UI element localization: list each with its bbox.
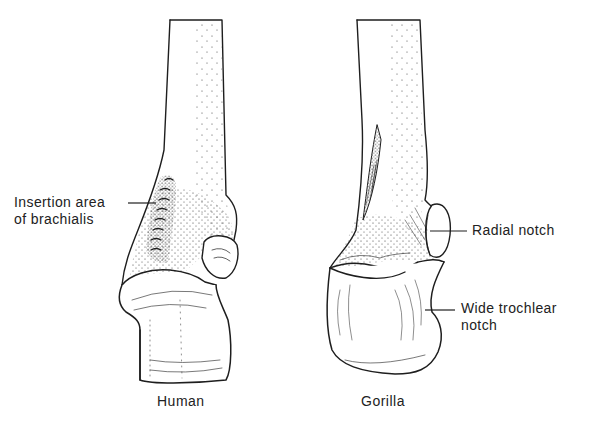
trochlear-label-line2: notch bbox=[461, 317, 557, 334]
human-ulna-drawing bbox=[119, 20, 238, 383]
insertion-label-line2: of brachialis bbox=[14, 211, 105, 228]
ulna-comparison-figure: Insertion area of brachialis Radial notc… bbox=[0, 0, 590, 426]
gorilla-ulna-drawing bbox=[327, 20, 450, 374]
insertion-label-line1: Insertion area bbox=[14, 194, 105, 211]
radial-notch-label: Radial notch bbox=[472, 222, 555, 239]
human-caption: Human bbox=[157, 393, 205, 410]
gorilla-caption: Gorilla bbox=[361, 393, 405, 410]
insertion-area-label: Insertion area of brachialis bbox=[14, 194, 105, 228]
trochlear-label-line1: Wide trochlear bbox=[461, 300, 557, 317]
trochlear-notch-label: Wide trochlear notch bbox=[461, 300, 557, 334]
